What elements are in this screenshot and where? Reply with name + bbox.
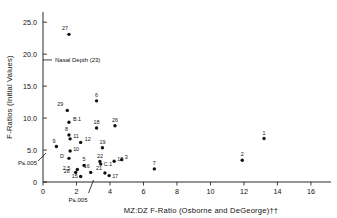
x-tick-label: 16 xyxy=(307,187,315,196)
x-tick-label: 8 xyxy=(175,187,179,196)
data-point xyxy=(66,109,69,112)
x-tick-label: 10 xyxy=(206,187,214,196)
data-point-label: 13 xyxy=(117,156,123,162)
scatter-plot-figure: 024681012141605.010.015.020.025.0Nasal D… xyxy=(0,0,337,218)
data-point xyxy=(95,99,98,102)
y-significance-label: P≤.005 xyxy=(18,160,38,166)
data-point-label: 6 xyxy=(95,92,98,98)
x-tick-label: 12 xyxy=(240,187,248,196)
x-tick-label: 0 xyxy=(41,187,45,196)
data-point-label: 16 xyxy=(84,163,90,169)
data-point-label: 17 xyxy=(112,173,118,179)
data-point xyxy=(112,160,115,163)
data-point-label: 29 xyxy=(57,101,63,107)
data-point-label: 27 xyxy=(62,25,68,31)
data-point-label: 10 xyxy=(73,146,79,152)
data-point xyxy=(241,159,244,162)
x-significance-label: P≤.005 xyxy=(69,197,89,203)
y-tick-label: 5.0 xyxy=(27,146,37,155)
data-point xyxy=(67,133,70,136)
data-point xyxy=(67,121,70,124)
y-significance-slash xyxy=(38,153,46,161)
data-point xyxy=(76,168,79,171)
data-point-label: 19 xyxy=(99,139,105,145)
data-point xyxy=(103,171,106,174)
data-point xyxy=(55,145,58,148)
data-point xyxy=(153,167,156,170)
y-tick-label: 20.0 xyxy=(23,50,37,59)
data-point-label: 3 xyxy=(125,154,128,160)
data-point-label: 9 xyxy=(52,138,55,144)
y-tick-label: 0 xyxy=(33,178,37,187)
data-point xyxy=(79,175,82,178)
data-point xyxy=(95,126,98,129)
data-point-label: 15 xyxy=(72,173,78,179)
data-point xyxy=(67,33,70,36)
data-point-label: D xyxy=(60,153,64,159)
data-point-label: 21 xyxy=(96,165,102,171)
data-point-label: 8 xyxy=(65,126,68,132)
x-tick-label: 6 xyxy=(141,187,145,196)
data-point-label: 26 xyxy=(112,117,118,123)
data-point-label: 7 xyxy=(153,160,156,166)
data-point xyxy=(68,149,71,152)
data-point-label: 1 xyxy=(263,130,266,136)
chart-canvas: 024681012141605.010.015.020.025.0Nasal D… xyxy=(0,0,337,218)
data-point xyxy=(262,137,265,140)
data-point xyxy=(107,174,110,177)
data-point xyxy=(67,157,70,160)
data-point-label: 11 xyxy=(73,133,79,139)
x-axis-title: MZ:DZ F-Ratio (Osborne and DeGeorge)†† xyxy=(124,206,278,215)
data-point-label: 28 xyxy=(64,168,70,174)
data-point xyxy=(89,171,92,174)
y-tick-label: 10.0 xyxy=(23,114,37,123)
x-tick-label: 14 xyxy=(273,187,281,196)
data-point-label: 2 xyxy=(241,151,244,157)
nasal-depth-label: Nasal Depth (23) xyxy=(55,57,100,63)
x-tick-label: 2 xyxy=(74,187,78,196)
y-tick-label: 15.0 xyxy=(23,82,37,91)
data-point-label: 5 xyxy=(83,156,86,162)
y-axis-title: F-Ratios (Initial Values) xyxy=(5,55,14,139)
data-point xyxy=(79,141,82,144)
data-point-label: C.1 xyxy=(104,161,112,167)
y-tick-label: 25.0 xyxy=(23,18,37,27)
data-point-label: 18 xyxy=(94,119,100,125)
data-point xyxy=(101,146,104,149)
data-point-label: 12 xyxy=(85,136,91,142)
x-tick-label: 4 xyxy=(108,187,112,196)
data-point xyxy=(113,124,116,127)
data-point xyxy=(68,137,71,140)
data-point-label: B.1 xyxy=(73,116,81,122)
data-point-label: 22 xyxy=(97,153,103,159)
